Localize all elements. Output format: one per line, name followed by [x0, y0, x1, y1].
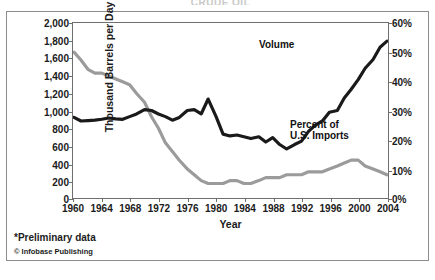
y-right-tick: 30%: [392, 106, 412, 117]
x-tick: 1980: [205, 203, 227, 214]
x-tick: 1996: [320, 203, 342, 214]
y-left-tick: 1,200: [44, 88, 69, 99]
chart-figure: CRUDE OIL Thousand Barrels per Day 2,000…: [0, 0, 435, 280]
percent-series-label-line1: Percent of: [290, 119, 349, 130]
x-tick: 2000: [348, 203, 370, 214]
preliminary-data-note: *Preliminary data: [14, 232, 96, 243]
series-canvas: [73, 23, 388, 198]
x-tick: 1992: [291, 203, 313, 214]
y-axis-left-title: Thousand Barrels per Day: [103, 0, 115, 147]
y-left-tick: 600: [52, 141, 69, 152]
y-right-tick: 60%: [392, 18, 412, 29]
clipped-title: CRUDE OIL: [118, 0, 323, 5]
x-tick: 1976: [176, 203, 198, 214]
y-right-tick: 20%: [392, 136, 412, 147]
x-tick: 1988: [262, 203, 284, 214]
y-right-tick: 40%: [392, 77, 412, 88]
y-left-tick: 1,800: [44, 35, 69, 46]
y-left-tick: 400: [52, 159, 69, 170]
y-left-tick: 1,400: [44, 71, 69, 82]
y-left-tick: 2,000: [44, 18, 69, 29]
copyright-note: © Infobase Publishing: [14, 247, 93, 256]
plot-area: Thousand Barrels per Day 2,000 1,800 1,6…: [72, 22, 389, 199]
percent-series-label-line2: U.S. Imports: [290, 130, 349, 141]
y-left-tick: 200: [52, 177, 69, 188]
x-tick: 1964: [90, 203, 112, 214]
x-tick: 1968: [119, 203, 141, 214]
y-left-tick: 800: [52, 124, 69, 135]
y-right-tick: 50%: [392, 47, 412, 58]
x-tick: 1960: [62, 203, 84, 214]
x-axis-title: Year: [72, 218, 389, 230]
y-left-tick: 1,600: [44, 53, 69, 64]
y-left-tick: 1,000: [44, 106, 69, 117]
percent-series-label: Percent of U.S. Imports: [290, 119, 349, 141]
x-tick: 2004: [377, 203, 399, 214]
y-right-tick: 10%: [392, 165, 412, 176]
volume-series-label: Volume: [259, 39, 294, 50]
x-tick: 1972: [148, 203, 170, 214]
x-tick: 1984: [234, 203, 256, 214]
